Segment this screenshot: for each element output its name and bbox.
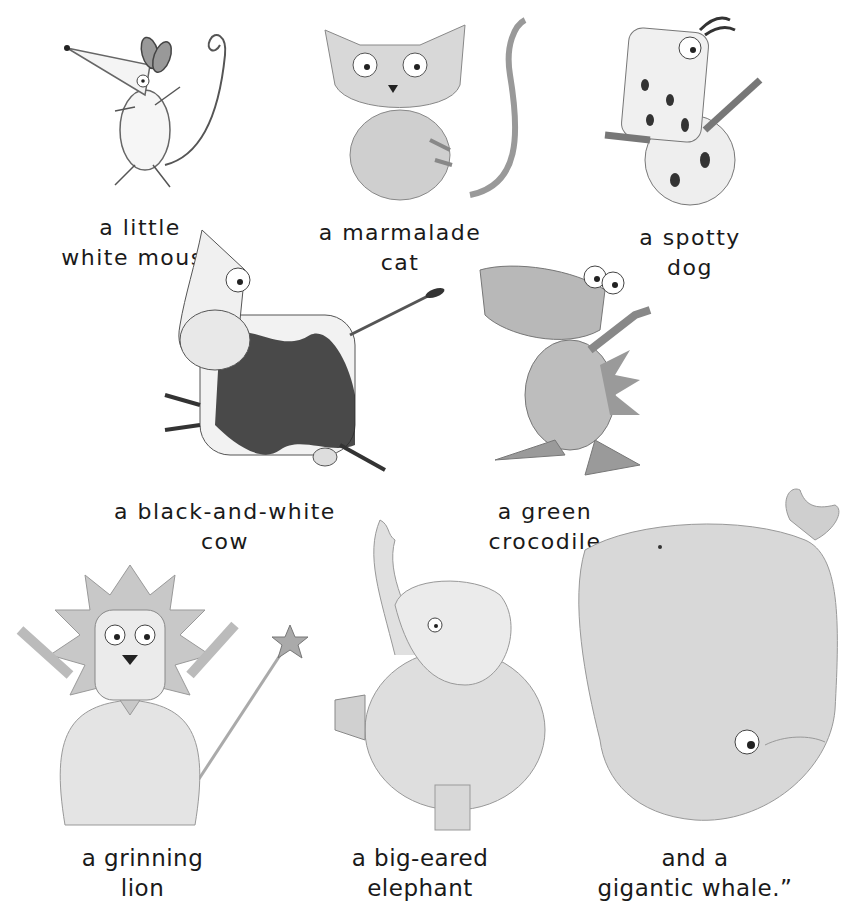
caption-elephant: a big-eared elephant: [330, 843, 510, 903]
caption-dog-line-1: a spotty: [600, 223, 780, 253]
cow-illustration-icon: [160, 225, 450, 485]
caption-elephant-line-2: elephant: [330, 873, 510, 903]
cat-illustration-icon: [320, 15, 535, 205]
crocodile-illustration-icon: [475, 255, 690, 485]
mouse-illustration-icon: [55, 15, 245, 205]
whale-illustration-icon: [565, 480, 855, 830]
caption-lion: a grinning lion: [55, 843, 230, 903]
caption-lion-line-2: lion: [55, 873, 230, 903]
caption-lion-line-1: a grinning: [55, 843, 230, 873]
elephant-illustration-icon: [325, 515, 555, 830]
dog-illustration-icon: [590, 10, 800, 210]
lion-illustration-icon: [10, 555, 310, 830]
caption-whale-line-2: gigantic whale.”: [575, 873, 815, 903]
caption-whale-line-1: and a: [575, 843, 815, 873]
caption-whale: and a gigantic whale.”: [575, 843, 815, 903]
caption-elephant-line-1: a big-eared: [330, 843, 510, 873]
